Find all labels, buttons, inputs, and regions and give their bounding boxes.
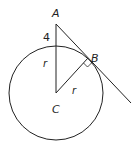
label-r-radius: r [72,85,77,96]
label-r-vertical: r [43,58,48,69]
geometry-diagram: A B C 4 r r [0,0,138,153]
label-B: B [91,52,99,65]
label-C: C [52,103,60,116]
label-length-4: 4 [43,31,50,44]
label-A: A [51,7,60,20]
